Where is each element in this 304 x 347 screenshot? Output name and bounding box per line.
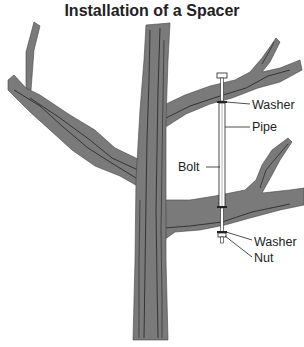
left-upper-twig	[26, 22, 40, 92]
label-washer-bottom: Washer	[254, 235, 297, 249]
leader-washer-bottom	[226, 232, 252, 240]
tree	[8, 22, 304, 340]
label-nut: Nut	[254, 251, 274, 265]
label-washer-top: Washer	[252, 98, 295, 112]
callouts: Washer Pipe Bolt Washer Nut	[178, 98, 297, 265]
trunk	[133, 23, 170, 340]
spacer-diagram: Washer Pipe Bolt Washer Nut	[0, 0, 304, 347]
bolt-head	[217, 73, 227, 78]
nut	[218, 233, 226, 237]
left-branch	[8, 75, 141, 188]
leader-washer-top	[226, 102, 250, 104]
lower-right-branch	[164, 138, 304, 240]
upper-right-branch	[164, 38, 302, 128]
label-pipe: Pipe	[252, 120, 277, 134]
label-bolt: Bolt	[178, 160, 200, 174]
